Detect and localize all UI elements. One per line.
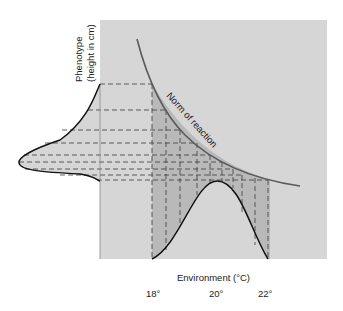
y-axis-label-line2: (height in cm) — [85, 24, 96, 82]
y-axis-label-line1: Phenotype — [73, 37, 84, 82]
x-axis-label: Environment (°C) — [177, 272, 250, 283]
phenotype-distribution-fill — [19, 84, 100, 181]
x-tick-20: 20° — [209, 288, 224, 299]
x-tick-18: 18° — [146, 288, 161, 299]
norm-of-reaction-diagram: Norm of reaction Phenotype (height in cm… — [0, 0, 343, 311]
x-tick-22: 22° — [258, 288, 273, 299]
